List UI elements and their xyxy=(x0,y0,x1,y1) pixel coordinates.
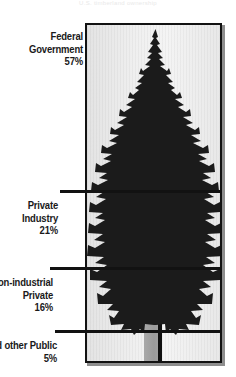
chart-panel xyxy=(85,23,222,363)
label-state-percent: 5% xyxy=(0,352,57,365)
label-federal-line1: Federal xyxy=(0,30,83,43)
figure-root: U.S. timberland ownership Federal Govern… xyxy=(0,0,236,377)
label-federal-government: Federal Government 57% xyxy=(0,30,83,68)
label-private-line1: Private xyxy=(0,199,58,212)
divider-federal-private xyxy=(60,190,222,193)
conifer-silhouette-icon xyxy=(87,25,222,363)
divider-private-nonindustrial xyxy=(50,267,222,270)
label-private-industry: Private Industry 21% xyxy=(0,199,58,237)
clipped-caption: U.S. timberland ownership xyxy=(62,0,174,7)
label-private-line2: Industry xyxy=(0,212,58,225)
label-nonindustrial-percent: 16% xyxy=(0,301,53,314)
label-federal-line2: Government xyxy=(0,43,83,56)
divider-nonindustrial-state xyxy=(55,330,222,333)
panel-drop-shadow-bottom xyxy=(87,363,224,366)
label-state-line1: State and other Public xyxy=(0,339,57,352)
label-nonindustrial-private: Non-industrial Private 16% xyxy=(0,276,53,314)
label-federal-percent: 57% xyxy=(0,55,83,68)
label-nonindustrial-line1: Non-industrial xyxy=(0,276,53,289)
clipped-caption-text: U.S. timberland ownership xyxy=(62,0,174,7)
panel-drop-shadow-right xyxy=(222,25,225,366)
label-private-percent: 21% xyxy=(0,224,58,237)
label-state-other-public: State and other Public 5% xyxy=(0,339,57,364)
label-nonindustrial-line2: Private xyxy=(0,289,53,302)
